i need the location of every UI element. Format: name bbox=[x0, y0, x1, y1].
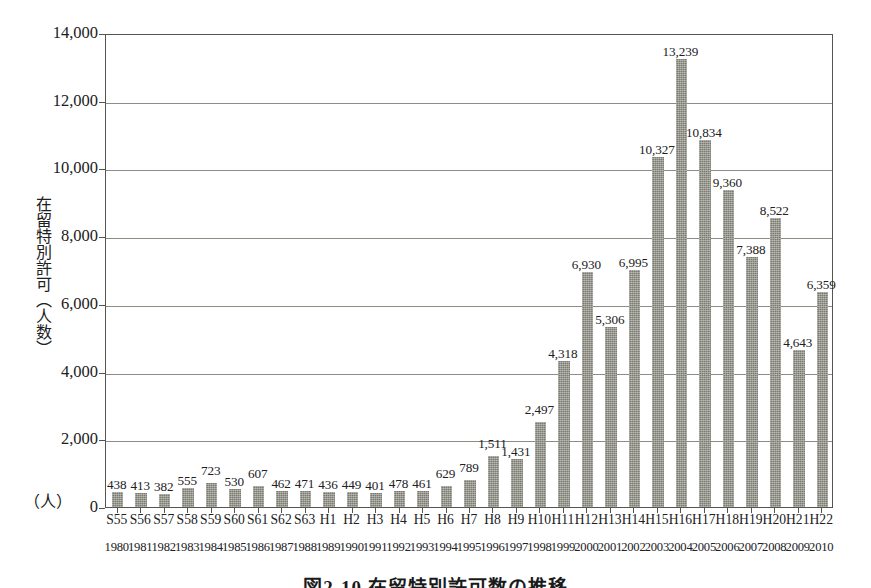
bar bbox=[135, 493, 147, 507]
bar-value-label: 6,930 bbox=[560, 257, 612, 273]
gridline bbox=[106, 170, 832, 171]
bar bbox=[558, 361, 570, 507]
x-axis-year-label: 2010 bbox=[799, 540, 843, 555]
bar bbox=[417, 491, 429, 507]
bar-value-label: 8,522 bbox=[748, 203, 800, 219]
bar bbox=[746, 257, 758, 507]
bar-value-label: 4,318 bbox=[537, 346, 589, 362]
bar bbox=[582, 272, 594, 507]
bar bbox=[300, 491, 312, 507]
bar-value-label: 789 bbox=[443, 460, 495, 476]
bar-value-label: 13,239 bbox=[654, 44, 706, 60]
bar bbox=[817, 292, 829, 507]
bar bbox=[793, 350, 805, 507]
bar bbox=[629, 270, 641, 507]
bar bbox=[605, 327, 617, 507]
y-axis-tick-label: 2,000 bbox=[0, 429, 98, 449]
bar-value-label: 9,360 bbox=[701, 175, 753, 191]
bar-value-label: 6,359 bbox=[795, 277, 847, 293]
bar bbox=[229, 489, 241, 507]
y-axis-tick-label: 0 bbox=[0, 497, 98, 517]
bar bbox=[464, 480, 476, 507]
bar-value-label: 10,327 bbox=[631, 142, 683, 158]
bar-value-label: 2,497 bbox=[513, 402, 565, 418]
bar bbox=[770, 218, 782, 507]
bar bbox=[370, 493, 382, 507]
y-axis-tick-label: 6,000 bbox=[0, 294, 98, 314]
y-axis-tick-label: 12,000 bbox=[0, 91, 98, 111]
bar bbox=[511, 459, 523, 507]
y-axis-tick-label: 10,000 bbox=[0, 158, 98, 178]
bar-value-label: 7,388 bbox=[725, 242, 777, 258]
bar bbox=[159, 494, 171, 507]
y-axis-tick-label: 14,000 bbox=[0, 23, 98, 43]
bar bbox=[323, 492, 335, 507]
y-axis-tick-mark bbox=[99, 508, 105, 509]
y-axis-tick-label: 4,000 bbox=[0, 362, 98, 382]
bar bbox=[723, 190, 735, 507]
chart-figure: 在留特別許可（人数） （人） 02,0004,0006,0008,00010,0… bbox=[0, 0, 871, 588]
bar-value-label: 5,306 bbox=[584, 312, 636, 328]
y-axis-tick-label: 8,000 bbox=[0, 226, 98, 246]
bar bbox=[112, 492, 124, 507]
bar-value-label: 1,431 bbox=[490, 444, 542, 460]
x-axis-era-label: H22 bbox=[799, 512, 843, 528]
y-axis-label: 在留特別許可（人数） bbox=[27, 196, 51, 356]
bar-value-label: 4,643 bbox=[772, 335, 824, 351]
bar bbox=[276, 491, 288, 507]
bar-value-label: 10,834 bbox=[678, 125, 730, 141]
bar-value-label: 6,995 bbox=[607, 255, 659, 271]
bar bbox=[652, 157, 664, 507]
gridline bbox=[106, 103, 832, 104]
bar bbox=[699, 140, 711, 507]
bar bbox=[535, 422, 547, 507]
figure-caption: 図2-10 在留特別許可数の推移 bbox=[0, 572, 871, 588]
